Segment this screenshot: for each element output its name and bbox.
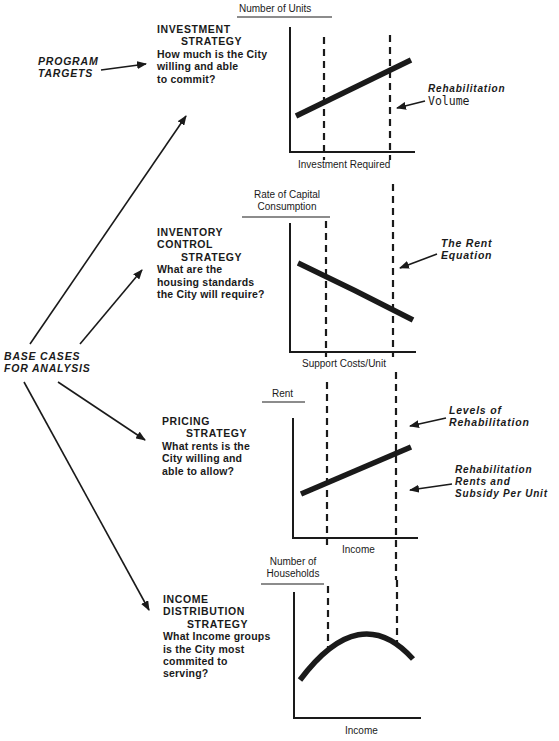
chart-2-ylabel: Rate of Capital Consumption — [244, 189, 330, 213]
strategy-title: INVESTMENT — [157, 23, 267, 35]
arrow-rehab-volume — [397, 101, 425, 108]
strategy-title: INCOME — [163, 593, 270, 605]
strategy-inventory-control: INVENTORY CONTROL STRATEGY What are the … — [157, 226, 265, 300]
chart-4-axes — [294, 592, 421, 718]
chart-4-curve — [300, 634, 413, 680]
chart-income-distribution — [294, 592, 421, 718]
arrow-to-inventory — [80, 270, 142, 344]
chart-4-ylabel: Number of Households — [262, 556, 324, 580]
arrow-levels-of-rehab — [410, 418, 446, 426]
chart-3-axes — [293, 418, 418, 538]
arrow-rent-equation — [400, 254, 437, 268]
strategy-investment: INVESTMENT STRATEGY How much is the City… — [157, 23, 267, 85]
chart-1-xlabel: Investment Required — [298, 159, 390, 171]
chart-3-xlabel: Income — [342, 544, 375, 556]
chart-1-ylabel: Number of Units — [239, 3, 311, 15]
chart-inventory — [290, 223, 416, 352]
strategy-income-distribution: INCOME DISTRIBUTION STRATEGY What Income… — [163, 593, 270, 680]
chart-1-curve — [296, 60, 411, 116]
chart-3-ylabel: Rent — [272, 388, 293, 400]
annotation-levels-of-rehab: Levels of Rehabilitation — [449, 404, 530, 429]
strategy-question: What rents is the — [162, 440, 250, 452]
flow-arrows — [24, 64, 452, 610]
program-targets-label: PROGRAM TARGETS — [38, 55, 98, 80]
arrow-rehab-rents — [410, 484, 452, 490]
arrow-to-pricing — [58, 382, 145, 440]
chart-2-xlabel: Support Costs/Unit — [302, 358, 386, 370]
chart-2-curve — [298, 263, 413, 320]
base-cases-label: BASE CASES FOR ANALYSIS — [4, 350, 91, 375]
strategy-title: PRICING — [162, 415, 250, 427]
ylabel-underlines — [237, 17, 332, 584]
chart-investment — [290, 27, 415, 152]
strategy-pricing: PRICING STRATEGY What rents is the City … — [162, 415, 250, 477]
chart-3-curve — [301, 447, 411, 494]
dashed-guides — [324, 35, 397, 648]
chart-4-xlabel: Income — [345, 725, 378, 737]
strategy-question: How much is the City — [157, 48, 267, 60]
arrow-program-targets — [101, 64, 146, 70]
strategy-question: What Income groups — [163, 630, 270, 642]
chart-pricing — [293, 418, 418, 538]
annotation-rehab-rents: Rehabilitation Rents and Subsidy Per Uni… — [455, 464, 548, 499]
strategy-title: INVENTORY — [157, 226, 265, 238]
annotation-rent-equation: The Rent Equation — [441, 237, 492, 262]
arrow-to-income-distribution — [24, 382, 149, 610]
strategy-question: What are the — [157, 263, 265, 275]
annotation-rehab-volume: Rehabilitation Volume — [428, 83, 505, 108]
